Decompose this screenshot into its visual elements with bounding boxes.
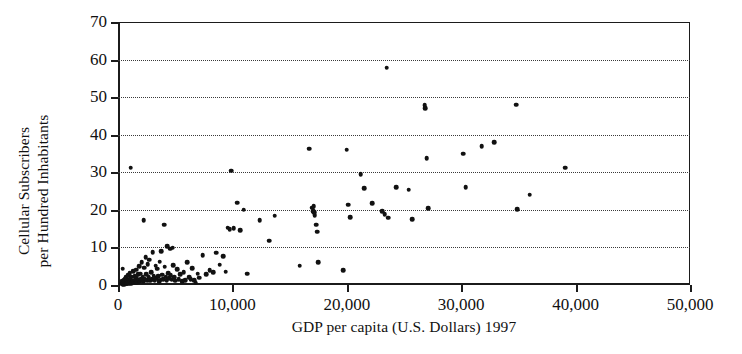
y-tick-label-10: 10 <box>90 237 107 257</box>
data-point <box>298 264 303 269</box>
data-point <box>386 215 391 220</box>
y-tick-mark-40 <box>111 135 118 137</box>
data-point <box>479 144 484 149</box>
x-tick-label-10000: 10,000 <box>209 295 256 315</box>
data-point <box>245 271 250 276</box>
x-tick-label-50000: 50,000 <box>667 295 714 315</box>
data-point <box>235 200 240 205</box>
gridline-y-60 <box>118 60 690 61</box>
data-point <box>346 202 351 207</box>
gridline-y-10 <box>118 247 690 248</box>
y-tick-label-50: 50 <box>90 87 107 107</box>
x-tick-mark-20000 <box>347 285 349 292</box>
data-point <box>410 217 415 222</box>
gridline-y-40 <box>118 135 690 136</box>
data-point <box>200 253 205 258</box>
data-point <box>190 266 195 271</box>
data-point <box>159 249 164 254</box>
y-tick-mark-10 <box>111 247 118 249</box>
data-point <box>162 222 167 227</box>
data-point <box>463 185 468 190</box>
data-point <box>563 165 568 170</box>
x-tick-label-0: 0 <box>114 295 123 315</box>
scatter-chart-figure: Cellular Subscribers per Hundred Inhabit… <box>0 0 742 354</box>
y-tick-label-0: 0 <box>99 275 108 295</box>
data-point <box>315 229 320 234</box>
y-axis-title-line1: Cellular Subscribers <box>14 115 33 268</box>
data-point <box>147 258 152 263</box>
data-point <box>425 156 430 161</box>
y-tick-mark-50 <box>111 97 118 99</box>
data-point <box>316 260 321 265</box>
data-point <box>229 168 234 173</box>
data-point <box>163 264 168 269</box>
data-point <box>461 151 466 156</box>
y-tick-label-30: 30 <box>90 162 107 182</box>
x-tick-label-20000: 20,000 <box>323 295 370 315</box>
data-point <box>142 218 147 223</box>
y-tick-mark-0 <box>111 285 118 287</box>
data-point <box>514 102 519 107</box>
x-axis-title: GDP per capita (U.S. Dollars) 1997 <box>118 318 690 336</box>
gridline-y-30 <box>118 172 690 173</box>
data-point <box>181 270 186 275</box>
data-point <box>528 193 533 198</box>
data-point <box>139 260 144 265</box>
data-point <box>185 260 190 265</box>
data-point <box>492 140 497 145</box>
y-tick-label-70: 70 <box>90 12 107 32</box>
data-point <box>197 276 202 281</box>
data-point <box>218 262 223 267</box>
x-tick-mark-30000 <box>461 285 463 292</box>
data-point <box>193 280 198 285</box>
y-tick-label-40: 40 <box>90 125 107 145</box>
data-point <box>214 250 219 255</box>
y-axis-title-line2: per Hundred Inhabitants <box>33 115 52 268</box>
data-point <box>345 147 350 152</box>
data-point <box>170 246 175 251</box>
data-point <box>312 213 317 218</box>
data-point <box>272 214 277 219</box>
data-point <box>223 270 228 275</box>
data-point <box>238 228 243 233</box>
data-point <box>231 226 236 231</box>
data-point <box>362 186 367 191</box>
data-point <box>358 172 363 177</box>
data-point <box>157 259 162 264</box>
x-tick-mark-50000 <box>690 285 692 292</box>
y-tick-label-60: 60 <box>90 50 107 70</box>
plot-area: 010203040506070 010,00020,00030,00040,00… <box>118 22 690 285</box>
data-point <box>242 208 247 213</box>
data-point <box>121 267 126 272</box>
data-point <box>370 201 375 206</box>
data-point <box>267 238 272 243</box>
y-tick-mark-20 <box>111 210 118 212</box>
data-point <box>221 254 226 259</box>
x-tick-mark-40000 <box>576 285 578 292</box>
data-point <box>307 146 312 151</box>
y-tick-mark-60 <box>111 60 118 62</box>
data-point <box>423 106 428 111</box>
x-tick-label-40000: 40,000 <box>552 295 599 315</box>
plot-frame <box>118 22 690 285</box>
gridline-y-20 <box>118 210 690 211</box>
data-point <box>311 204 316 209</box>
data-point <box>258 218 263 223</box>
x-tick-mark-10000 <box>232 285 234 292</box>
data-point <box>515 207 520 212</box>
data-point <box>385 66 390 71</box>
data-point <box>128 165 133 170</box>
data-point <box>204 272 209 277</box>
data-point <box>406 187 411 192</box>
data-point <box>314 223 319 228</box>
data-point <box>394 185 399 190</box>
data-point <box>155 267 160 272</box>
data-point <box>175 267 180 272</box>
y-tick-mark-70 <box>111 22 118 24</box>
y-tick-mark-30 <box>111 172 118 174</box>
data-point <box>341 268 346 273</box>
data-point <box>211 270 216 275</box>
x-tick-label-30000: 30,000 <box>438 295 485 315</box>
data-point <box>145 262 150 267</box>
data-point <box>348 215 353 220</box>
